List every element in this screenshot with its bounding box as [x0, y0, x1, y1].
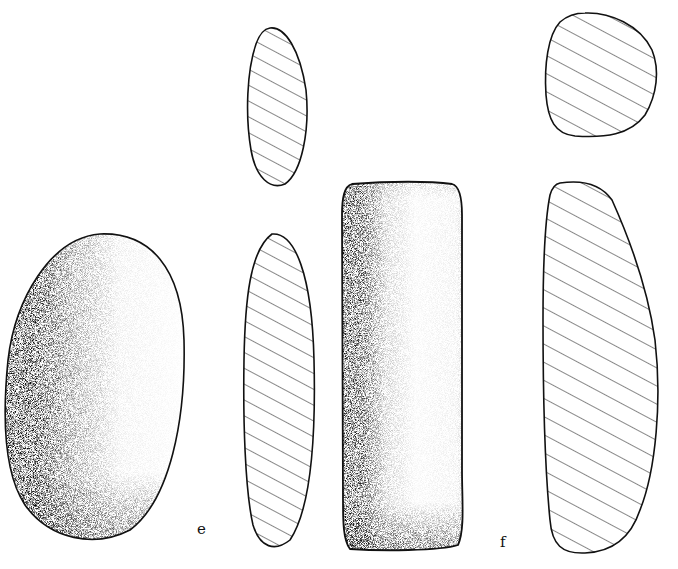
figure-label-f: f [500, 535, 506, 550]
figure-e-section-lower [244, 234, 315, 547]
figure-f-plan [335, 175, 470, 560]
figure-label-e: e [197, 522, 206, 537]
figure-e-plan [0, 225, 200, 555]
figure-f-section-upper [546, 13, 657, 137]
figure-f-section-lower [543, 182, 658, 553]
figure-e-section-upper [248, 28, 307, 186]
artifact-plate [0, 0, 678, 569]
